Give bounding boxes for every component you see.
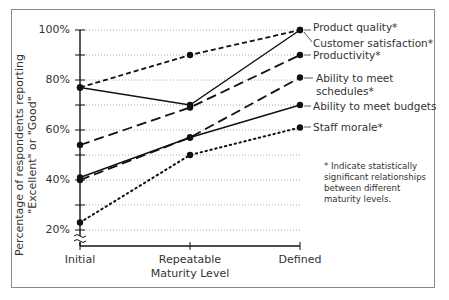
data-point xyxy=(187,104,193,110)
data-point xyxy=(297,124,303,130)
y-axis-title: Percentage of respondents reporting "Exc… xyxy=(13,54,39,256)
data-point xyxy=(187,52,193,58)
legend-schedules-line1: Ability to meet xyxy=(316,72,393,84)
legend-customer-satisfaction: Customer satisfaction* xyxy=(313,37,433,49)
y-axis-title-line2: "Excellent" or "Good" xyxy=(26,54,39,256)
data-point xyxy=(297,74,303,80)
y-axis-title-line1: Percentage of respondents reporting xyxy=(13,54,26,256)
series-lines xyxy=(77,27,303,226)
data-point xyxy=(187,152,193,158)
series-productivity xyxy=(80,55,300,145)
connector-customer-satisfaction xyxy=(304,32,312,42)
data-point xyxy=(77,219,83,225)
legend-schedules-line2: schedules* xyxy=(316,85,374,97)
data-point xyxy=(187,134,193,140)
x-axis-title: Maturity Level xyxy=(151,267,229,280)
axes xyxy=(74,30,300,250)
data-point xyxy=(77,174,83,180)
legend-staff-morale: Staff morale* xyxy=(313,121,383,133)
legend-product-quality: Product quality* xyxy=(313,21,397,33)
legend-budgets: Ability to meet budgets xyxy=(313,100,436,112)
gridlines xyxy=(80,30,300,230)
data-point xyxy=(297,52,303,58)
data-point xyxy=(77,142,83,148)
data-point xyxy=(297,102,303,108)
data-point xyxy=(77,84,83,90)
axis-break-icon xyxy=(74,235,86,243)
series-product-quality xyxy=(80,30,300,105)
legend-productivity: Productivity* xyxy=(313,49,381,61)
series-staff-morale xyxy=(80,128,300,223)
significance-note: * Indicate statistically significant rel… xyxy=(324,161,434,205)
series-customer-satisfaction xyxy=(80,30,300,88)
data-point xyxy=(297,27,303,33)
legend-connectors xyxy=(304,30,313,127)
